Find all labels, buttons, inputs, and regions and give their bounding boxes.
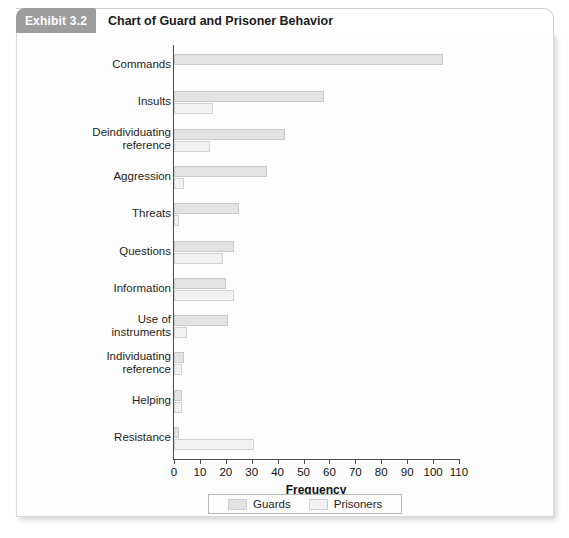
- category-label: Insults: [21, 95, 171, 108]
- x-axis-tick: [355, 459, 356, 464]
- category-label: Questions: [21, 245, 171, 258]
- category-label: Commands: [21, 58, 171, 71]
- bar-guards: [174, 166, 267, 177]
- x-axis-tick: [329, 459, 330, 464]
- bar-guards: [174, 91, 324, 102]
- x-axis-tick-label: 110: [444, 466, 474, 478]
- bar-guards: [174, 241, 234, 252]
- chart-legend: Guards Prisoners: [208, 494, 402, 514]
- category-label: Information: [21, 282, 171, 295]
- legend-label-guards: Guards: [253, 498, 291, 510]
- legend-swatch-prisoners: [309, 499, 328, 510]
- chart-panel: Frequency CommandsInsultsDeindividuating…: [16, 33, 554, 517]
- bar-prisoners: [174, 402, 182, 413]
- x-axis-tick: [226, 459, 227, 464]
- x-axis-tick: [174, 459, 175, 464]
- category-label: Individuating reference: [21, 350, 171, 376]
- bar-guards: [174, 278, 226, 289]
- exhibit-header: Exhibit 3.2 Chart of Guard and Prisoner …: [16, 8, 554, 33]
- x-axis-tick: [252, 459, 253, 464]
- bar-guards: [174, 352, 184, 363]
- category-label: Helping: [21, 394, 171, 407]
- bar-guards: [174, 427, 179, 438]
- bar-guards: [174, 390, 182, 401]
- category-label: Deindividuating reference: [21, 126, 171, 152]
- bar-prisoners: [174, 290, 234, 301]
- exhibit-figure: Exhibit 3.2 Chart of Guard and Prisoner …: [0, 0, 569, 538]
- bar-guards: [174, 315, 228, 326]
- legend-item-prisoners: Prisoners: [309, 498, 383, 510]
- legend-swatch-guards: [228, 499, 247, 510]
- x-axis-tick: [459, 459, 460, 464]
- x-axis-line: [173, 459, 459, 460]
- bar-prisoners: [174, 327, 187, 338]
- bar-prisoners: [174, 253, 223, 264]
- bar-guards: [174, 203, 239, 214]
- bar-prisoners: [174, 178, 184, 189]
- bar-prisoners: [174, 364, 182, 375]
- exhibit-tag: Exhibit 3.2: [16, 8, 96, 33]
- x-axis-tick: [278, 459, 279, 464]
- bar-prisoners: [174, 141, 210, 152]
- legend-item-guards: Guards: [228, 498, 291, 510]
- category-label: Resistance: [21, 431, 171, 444]
- plot-area: Frequency CommandsInsultsDeindividuating…: [17, 33, 555, 517]
- legend-label-prisoners: Prisoners: [334, 498, 383, 510]
- bar-guards: [174, 129, 285, 140]
- x-axis-tick: [381, 459, 382, 464]
- x-axis-tick: [407, 459, 408, 464]
- bar-prisoners: [174, 439, 254, 450]
- category-label: Threats: [21, 207, 171, 220]
- x-axis-tick: [433, 459, 434, 464]
- exhibit-title: Chart of Guard and Prisoner Behavior: [108, 8, 333, 33]
- category-label: Use of instruments: [21, 313, 171, 339]
- bar-guards: [174, 54, 443, 65]
- bar-prisoners: [174, 215, 179, 226]
- bar-prisoners: [174, 103, 213, 114]
- category-label: Aggression: [21, 170, 171, 183]
- x-axis-tick: [200, 459, 201, 464]
- x-axis-tick: [304, 459, 305, 464]
